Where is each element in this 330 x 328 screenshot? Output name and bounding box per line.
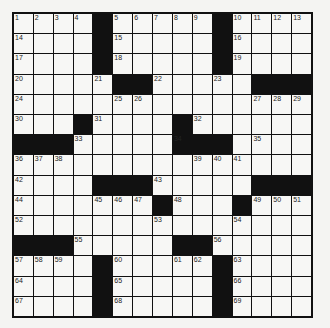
crossword-cell[interactable]: 31	[93, 115, 112, 134]
crossword-cell[interactable]	[74, 176, 93, 195]
crossword-cell[interactable]: 35	[252, 135, 271, 154]
crossword-cell[interactable]	[74, 54, 93, 73]
crossword-cell[interactable]	[292, 54, 311, 73]
crossword-cell[interactable]	[272, 54, 291, 73]
crossword-cell[interactable]	[54, 34, 73, 53]
crossword-cell[interactable]	[54, 54, 73, 73]
crossword-cell[interactable]: 59	[54, 256, 73, 275]
crossword-cell[interactable]	[113, 216, 132, 235]
crossword-cell[interactable]	[252, 54, 271, 73]
crossword-cell[interactable]	[292, 256, 311, 275]
crossword-cell[interactable]: 13	[292, 14, 311, 33]
crossword-cell[interactable]	[34, 75, 53, 94]
crossword-cell[interactable]	[193, 297, 212, 316]
crossword-cell[interactable]: 61	[173, 256, 192, 275]
crossword-cell[interactable]	[133, 135, 152, 154]
crossword-cell[interactable]	[34, 95, 53, 114]
crossword-cell[interactable]	[252, 115, 271, 134]
crossword-cell[interactable]: 16	[233, 34, 252, 53]
crossword-cell[interactable]	[133, 155, 152, 174]
crossword-cell[interactable]	[193, 54, 212, 73]
crossword-cell[interactable]	[54, 297, 73, 316]
crossword-cell[interactable]	[233, 115, 252, 134]
crossword-cell[interactable]	[272, 216, 291, 235]
crossword-cell[interactable]	[34, 216, 53, 235]
crossword-cell[interactable]	[173, 95, 192, 114]
crossword-cell[interactable]: 1	[14, 14, 33, 33]
crossword-cell[interactable]: 37	[34, 155, 53, 174]
crossword-cell[interactable]: 22	[153, 75, 172, 94]
crossword-cell[interactable]	[133, 115, 152, 134]
crossword-cell[interactable]: 45	[93, 196, 112, 215]
crossword-cell[interactable]: 3	[54, 14, 73, 33]
crossword-cell[interactable]	[213, 95, 232, 114]
crossword-cell[interactable]	[252, 155, 271, 174]
crossword-cell[interactable]: 23	[213, 75, 232, 94]
crossword-cell[interactable]: 64	[14, 277, 33, 296]
crossword-cell[interactable]: 47	[133, 196, 152, 215]
crossword-cell[interactable]	[34, 34, 53, 53]
crossword-cell[interactable]	[93, 155, 112, 174]
crossword-cell[interactable]	[74, 196, 93, 215]
crossword-cell[interactable]	[93, 135, 112, 154]
crossword-cell[interactable]	[153, 54, 172, 73]
crossword-cell[interactable]	[193, 95, 212, 114]
crossword-cell[interactable]	[272, 155, 291, 174]
crossword-cell[interactable]	[292, 135, 311, 154]
crossword-cell[interactable]	[173, 34, 192, 53]
crossword-cell[interactable]	[193, 277, 212, 296]
crossword-cell[interactable]	[153, 115, 172, 134]
crossword-cell[interactable]	[74, 95, 93, 114]
crossword-cell[interactable]	[233, 75, 252, 94]
crossword-cell[interactable]	[113, 135, 132, 154]
crossword-cell[interactable]: 49	[252, 196, 271, 215]
crossword-cell[interactable]: 63	[233, 256, 252, 275]
crossword-cell[interactable]	[272, 277, 291, 296]
crossword-cell[interactable]	[213, 196, 232, 215]
crossword-cell[interactable]: 19	[233, 54, 252, 73]
crossword-cell[interactable]: 67	[14, 297, 33, 316]
crossword-cell[interactable]	[133, 54, 152, 73]
crossword-cell[interactable]: 44	[14, 196, 33, 215]
crossword-cell[interactable]	[34, 297, 53, 316]
crossword-cell[interactable]: 56	[213, 236, 232, 255]
crossword-cell[interactable]	[74, 256, 93, 275]
crossword-cell[interactable]	[34, 277, 53, 296]
crossword-cell[interactable]	[54, 115, 73, 134]
crossword-cell[interactable]	[74, 155, 93, 174]
crossword-cell[interactable]: 15	[113, 34, 132, 53]
crossword-cell[interactable]	[74, 277, 93, 296]
crossword-cell[interactable]: 33	[74, 135, 93, 154]
crossword-cell[interactable]	[193, 196, 212, 215]
crossword-cell[interactable]: 7	[153, 14, 172, 33]
crossword-cell[interactable]: 30	[14, 115, 33, 134]
crossword-cell[interactable]	[54, 196, 73, 215]
crossword-cell[interactable]	[34, 54, 53, 73]
crossword-cell[interactable]	[133, 297, 152, 316]
crossword-cell[interactable]: 68	[113, 297, 132, 316]
crossword-cell[interactable]	[272, 135, 291, 154]
crossword-cell[interactable]: 8	[173, 14, 192, 33]
crossword-cell[interactable]	[113, 115, 132, 134]
crossword-cell[interactable]: 60	[113, 256, 132, 275]
crossword-cell[interactable]: 48	[173, 196, 192, 215]
crossword-cell[interactable]	[233, 176, 252, 195]
crossword-cell[interactable]	[54, 216, 73, 235]
crossword-cell[interactable]	[54, 95, 73, 114]
crossword-cell[interactable]: 43	[153, 176, 172, 195]
crossword-cell[interactable]	[272, 256, 291, 275]
crossword-cell[interactable]	[153, 135, 172, 154]
crossword-cell[interactable]	[74, 75, 93, 94]
crossword-cell[interactable]	[133, 216, 152, 235]
crossword-cell[interactable]	[292, 236, 311, 255]
crossword-cell[interactable]	[93, 236, 112, 255]
crossword-cell[interactable]: 26	[133, 95, 152, 114]
crossword-cell[interactable]: 29	[292, 95, 311, 114]
crossword-cell[interactable]: 40	[213, 155, 232, 174]
crossword-cell[interactable]	[173, 297, 192, 316]
crossword-cell[interactable]	[272, 34, 291, 53]
crossword-cell[interactable]	[173, 75, 192, 94]
crossword-cell[interactable]: 51	[292, 196, 311, 215]
crossword-cell[interactable]: 38	[54, 155, 73, 174]
crossword-cell[interactable]: 21	[93, 75, 112, 94]
